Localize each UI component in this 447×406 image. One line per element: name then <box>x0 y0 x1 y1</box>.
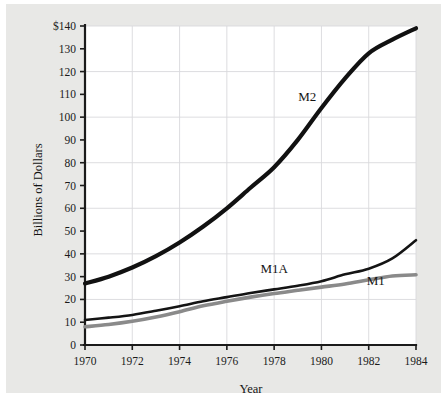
y-tick-label: 20 <box>65 293 77 305</box>
x-axis-tick-labels: 19701972197419761978198019821984 <box>74 355 428 367</box>
y-tick-label: 30 <box>65 271 77 283</box>
x-tick-label: 1980 <box>310 355 333 367</box>
x-tick-label: 1984 <box>405 355 428 367</box>
y-tick-label: 110 <box>59 88 76 100</box>
series-label-m2: M2 <box>298 89 316 104</box>
x-axis-title: Year <box>239 382 263 396</box>
x-tick-label: 1972 <box>121 355 144 367</box>
y-tick-label: 40 <box>65 248 77 260</box>
y-axis-title: Billions of Dollars <box>31 143 45 236</box>
chart-svg: 0102030405060708090100110120130$140 1970… <box>0 0 447 406</box>
plot-container: 0102030405060708090100110120130$140 1970… <box>0 0 447 406</box>
y-tick-label: 0 <box>70 339 76 351</box>
x-tick-label: 1974 <box>168 355 191 367</box>
series-label-m1a: M1A <box>260 261 288 276</box>
y-tick-label: 100 <box>59 111 77 123</box>
y-tick-label: $140 <box>53 20 76 32</box>
y-axis-tick-labels: 0102030405060708090100110120130$140 <box>53 20 76 351</box>
x-tick-label: 1982 <box>357 355 380 367</box>
y-tick-label: 50 <box>65 225 77 237</box>
y-tick-label: 70 <box>65 180 77 192</box>
y-tick-label: 130 <box>59 43 77 55</box>
y-tick-label: 90 <box>65 134 77 146</box>
x-tick-label: 1976 <box>215 355 238 367</box>
x-tick-label: 1970 <box>74 355 97 367</box>
y-tick-label: 80 <box>65 157 77 169</box>
y-tick-label: 120 <box>59 66 77 78</box>
series-label-m1: M1 <box>367 273 385 288</box>
x-tick-label: 1978 <box>263 355 286 367</box>
y-tick-label: 60 <box>65 202 77 214</box>
chart-figure: 0102030405060708090100110120130$140 1970… <box>0 0 447 406</box>
y-tick-label: 10 <box>65 316 77 328</box>
